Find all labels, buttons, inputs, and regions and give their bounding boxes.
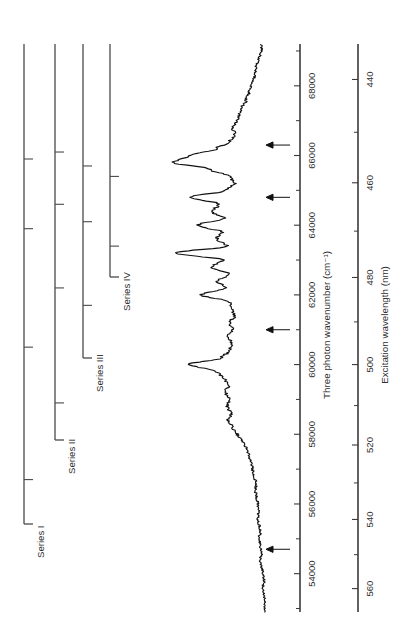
wavelength-tick-label: 460: [364, 175, 375, 191]
figure-canvas: Series ISeries IISeries IIISeries IV 540…: [0, 0, 416, 637]
wavelength-tick-label: 560: [364, 581, 375, 597]
spectrum-trace: [172, 45, 266, 612]
arrow-head: [266, 142, 273, 148]
wavelength-tick-label: 440: [364, 72, 375, 88]
series-bracket: Series II: [55, 44, 77, 474]
series-label: Series II: [66, 439, 77, 474]
series-label: Series III: [94, 354, 105, 392]
series-label: Series IV: [121, 271, 132, 311]
wavelength-tick-label: 500: [364, 357, 375, 373]
peak-marker-arrow: [266, 327, 290, 333]
peak-marker-arrow: [266, 546, 290, 552]
series-bracket: Series IV: [110, 44, 132, 311]
wavenumber-tick-label: 54000: [306, 560, 317, 586]
peak-arrow-group: [266, 142, 290, 552]
series-bracket-group: Series ISeries IISeries IIISeries IV: [24, 44, 132, 558]
peak-marker-arrow: [266, 194, 290, 200]
wavenumber-tick-label: 60000: [306, 351, 317, 377]
arrow-head: [266, 546, 273, 552]
series-label: Series I: [35, 525, 46, 558]
series-bracket: Series I: [24, 44, 46, 558]
spectrum-trace-group: [172, 45, 266, 612]
wavenumber-tick-label: 68000: [306, 73, 317, 99]
wavelength-tick-label: 480: [364, 270, 375, 286]
peak-marker-arrow: [266, 142, 290, 148]
arrow-head: [266, 194, 273, 200]
wavelength-axis-label: Excitation wavelength (nm): [379, 266, 390, 384]
wavenumber-tick-label: 62000: [306, 282, 317, 308]
wavelength-tick-label: 520: [364, 437, 375, 453]
wavenumber-tick-label: 56000: [306, 491, 317, 517]
wavenumber-tick-label: 58000: [306, 421, 317, 447]
wavenumber-tick-label: 66000: [306, 142, 317, 168]
wavelength-axis: 440460480500520540560: [352, 44, 375, 612]
arrow-head: [266, 327, 273, 333]
wavelength-tick-label: 540: [364, 512, 375, 528]
wavenumber-tick-label: 64000: [306, 212, 317, 238]
wavenumber-axis-label: Three photon wavenumber (cm⁻¹): [321, 251, 332, 399]
spectrum-figure: Series ISeries IISeries IIISeries IV 540…: [0, 0, 416, 637]
series-bracket: Series III: [83, 44, 105, 392]
wavenumber-axis: 5400056000580006000062000640006600068000: [294, 44, 317, 612]
